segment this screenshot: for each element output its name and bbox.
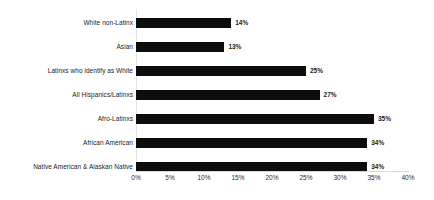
category-label: African American (83, 131, 133, 155)
bar-value-label: 35% (374, 114, 391, 124)
category-label: Afro-Latinxs (98, 107, 133, 131)
bar-track: 35% (136, 107, 434, 131)
chart-row: All Hispanics/Latinxs 27% (0, 83, 434, 107)
bar-track: 14% (136, 11, 434, 35)
bar-rows: White non-Latinx 14% Asian 13% Latinxs w… (0, 11, 434, 179)
category-label: White non-Latinx (83, 11, 133, 35)
bar-chart: White non-Latinx 14% Asian 13% Latinxs w… (0, 0, 434, 200)
bar-value-label: 14% (231, 18, 248, 28)
bar (136, 114, 374, 124)
x-axis-line (136, 171, 409, 172)
category-label: All Hispanics/Latinxs (72, 83, 133, 107)
category-label: Latinxs who identify as White (48, 59, 133, 83)
chart-row: African American 34% (0, 131, 434, 155)
chart-row: White non-Latinx 14% (0, 11, 434, 35)
bar (136, 18, 231, 28)
bar-value-label: 25% (306, 66, 323, 76)
chart-row: Latinxs who identify as White 25% (0, 59, 434, 83)
chart-row: Asian 13% (0, 35, 434, 59)
category-label: Asian (116, 35, 133, 59)
bar-track: 34% (136, 131, 434, 155)
bar-track: 25% (136, 59, 434, 83)
bar (136, 66, 306, 76)
bar-track: 13% (136, 35, 434, 59)
x-axis-tick-labels: 0% 5% 10% 15% 20% 25% 30% 35% 40% (0, 174, 434, 188)
bar-value-label: 27% (320, 90, 337, 100)
x-tick-label: 40% (388, 174, 428, 181)
bar-track: 27% (136, 83, 434, 107)
bar (136, 42, 224, 52)
bar-value-label: 34% (367, 138, 384, 148)
bar (136, 138, 367, 148)
chart-row: Afro-Latinxs 35% (0, 107, 434, 131)
bar-value-label: 13% (224, 42, 241, 52)
bar (136, 90, 320, 100)
